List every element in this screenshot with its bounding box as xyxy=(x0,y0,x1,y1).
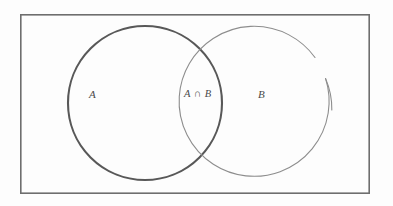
venn-diagram-figure: A A ∩ B B xyxy=(0,0,393,206)
universal-set-box xyxy=(21,15,369,193)
venn-diagram-canvas xyxy=(0,0,393,206)
set-a-label: A xyxy=(89,88,96,100)
set-b-label: B xyxy=(258,88,265,100)
set-a-circle xyxy=(68,26,222,180)
intersection-label: A ∩ B xyxy=(184,88,211,99)
